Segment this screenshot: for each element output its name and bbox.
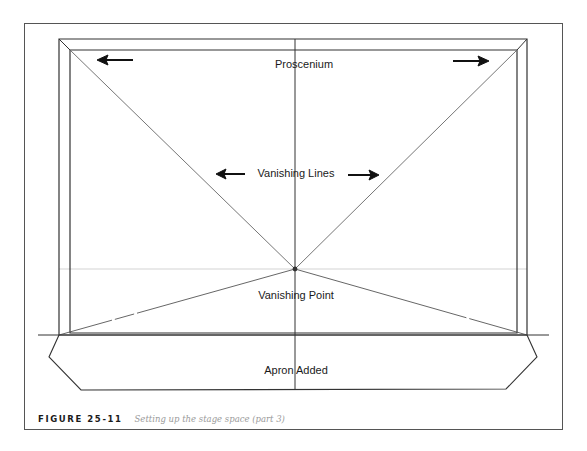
vanishing-point-label: Vanishing Point [258,289,334,301]
arrow-right-icon [348,170,379,180]
arrow-right-icon [453,56,489,66]
figure-number: FIGURE 25-11 [38,414,123,424]
vanishing-line-lower-left [59,269,295,335]
figure-caption: FIGURE 25-11Setting up the stage space (… [38,413,285,424]
figure-caption-text: Setting up the stage space (part 3) [135,414,285,424]
vanishing-point-dot [293,267,298,272]
arrow-left-icon [97,55,133,65]
proscenium-label: Proscenium [275,58,333,70]
apron-label: Apron Added [264,364,328,376]
arrow-left-icon [216,169,245,179]
vanishing-lines-label: Vanishing Lines [258,167,335,179]
vanishing-line-lower-right [295,269,527,335]
vanishing-line-upper-left [70,50,295,269]
apron-outline [49,335,537,390]
vanishing-line-upper-right [295,50,517,269]
